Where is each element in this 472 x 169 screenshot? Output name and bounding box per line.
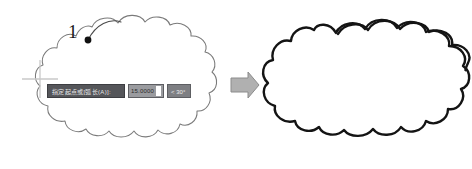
- illustration-canvas: 1 指定起点或[弧长(A)]: 15.0000 < 30°: [0, 0, 472, 169]
- right-cloud-outline-layer: [0, 0, 472, 169]
- revision-cloud-result-path: [263, 20, 469, 136]
